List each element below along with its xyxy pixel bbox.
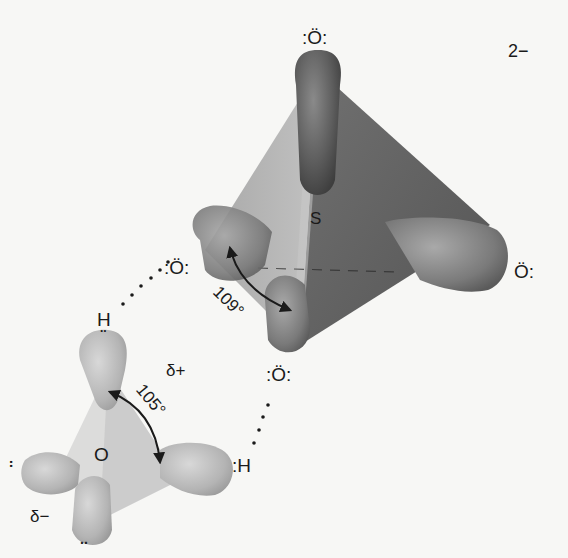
sulfate-oxygen-left: :Ö: [164,258,189,277]
sulfate-oxygen-right: Ö: [514,262,534,281]
water-hydrogen-right: :H [232,456,251,475]
sulfate-lobe-top [295,50,341,195]
water-lobe-lp-bottom [72,476,112,545]
water-molecule [21,330,233,545]
diagram-canvas [0,0,568,558]
hydrogen-bond-bottom [252,403,270,445]
sulfate-lobe-bottom [265,276,310,353]
sulfur-atom-label: S [310,210,321,227]
sulfate-oxygen-top: :Ö: [302,28,327,47]
water-lone-pair-bottom: .. [80,532,88,546]
sulfate-charge: 2− [508,42,529,60]
water-lobe-h-right [160,443,233,496]
water-partial-negative: δ− [30,508,49,525]
water-partial-positive: δ+ [166,362,185,379]
water-lobe-lp-left [21,452,80,494]
water-h-top-lone-pair: .. [100,322,107,334]
water-lone-pair-left: .. [8,460,22,468]
water-oxygen-atom: O [94,445,109,464]
hydrogen-bond-top [121,260,170,306]
sulfate-oxygen-bottom: :Ö: [266,365,291,384]
